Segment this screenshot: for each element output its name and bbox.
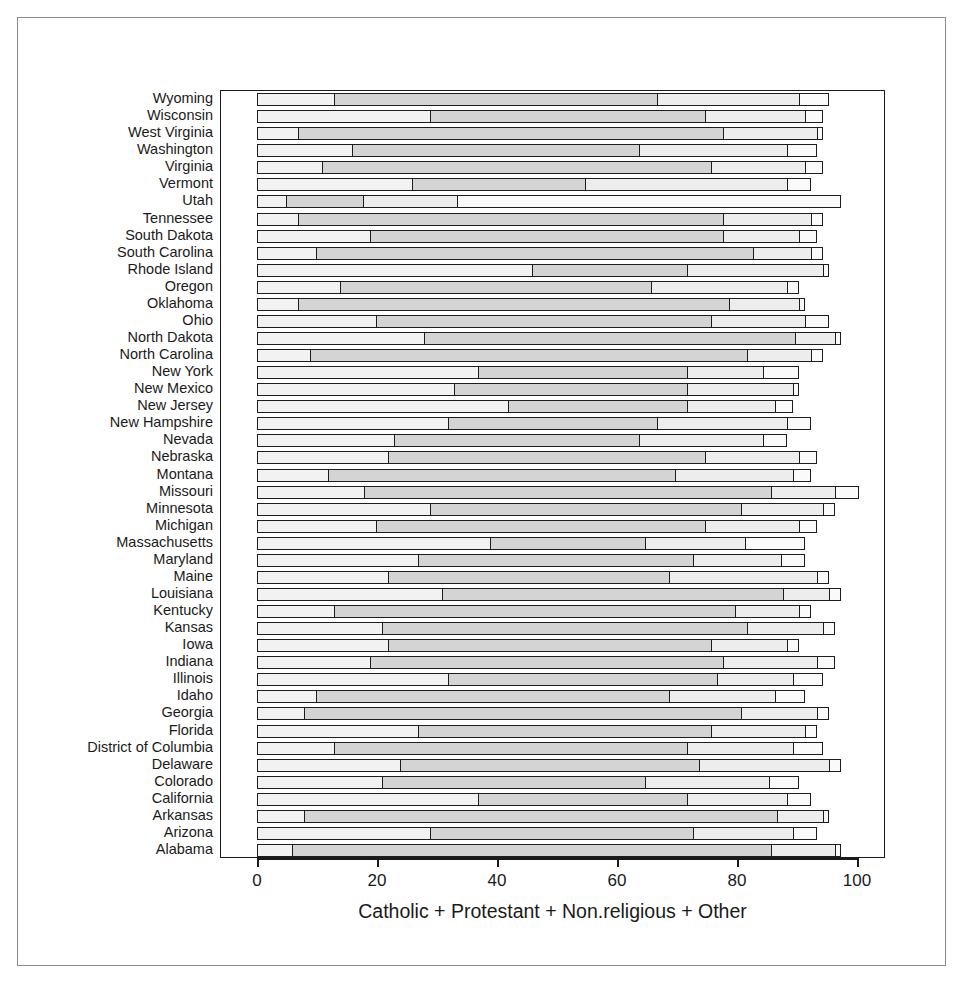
bar-segment-other[interactable]: [799, 230, 817, 243]
bar-segment-protestant[interactable]: [400, 759, 700, 772]
stacked-bar-row[interactable]: [257, 144, 817, 157]
bar-segment-other[interactable]: [787, 639, 799, 652]
stacked-bar-row[interactable]: [257, 571, 829, 584]
bar-segment-catholic[interactable]: [257, 793, 479, 806]
bar-segment-catholic[interactable]: [257, 673, 449, 686]
bar-segment-non-religious[interactable]: [687, 400, 777, 413]
bar-segment-catholic[interactable]: [257, 110, 431, 123]
stacked-bar-row[interactable]: [257, 673, 823, 686]
bar-segment-other[interactable]: [787, 178, 811, 191]
stacked-bar-row[interactable]: [257, 690, 805, 703]
bar-segment-other[interactable]: [793, 827, 817, 840]
bar-segment-catholic[interactable]: [257, 281, 341, 294]
bar-segment-catholic[interactable]: [257, 776, 383, 789]
bar-segment-non-religious[interactable]: [363, 195, 459, 208]
bar-segment-non-religious[interactable]: [687, 366, 765, 379]
bar-segment-other[interactable]: [775, 690, 805, 703]
stacked-bar-row[interactable]: [257, 298, 805, 311]
bar-segment-catholic[interactable]: [257, 827, 431, 840]
stacked-bar-row[interactable]: [257, 520, 817, 533]
stacked-bar-row[interactable]: [257, 178, 811, 191]
stacked-bar-row[interactable]: [257, 451, 817, 464]
bar-segment-protestant[interactable]: [454, 383, 688, 396]
stacked-bar-row[interactable]: [257, 759, 841, 772]
bar-segment-other[interactable]: [835, 486, 859, 499]
bar-segment-catholic[interactable]: [257, 366, 479, 379]
bar-segment-non-religious[interactable]: [717, 673, 795, 686]
bar-segment-non-religious[interactable]: [723, 230, 801, 243]
bar-segment-other[interactable]: [817, 656, 835, 669]
stacked-bar-row[interactable]: [257, 776, 799, 789]
bar-segment-other[interactable]: [787, 417, 811, 430]
bar-segment-protestant[interactable]: [370, 656, 724, 669]
stacked-bar-row[interactable]: [257, 810, 829, 823]
bar-segment-other[interactable]: [793, 673, 823, 686]
stacked-bar-row[interactable]: [257, 554, 805, 567]
bar-segment-catholic[interactable]: [257, 178, 413, 191]
bar-segment-non-religious[interactable]: [729, 298, 801, 311]
bar-segment-non-religious[interactable]: [705, 451, 801, 464]
bar-segment-catholic[interactable]: [257, 588, 443, 601]
bar-segment-protestant[interactable]: [334, 742, 688, 755]
stacked-bar-row[interactable]: [257, 332, 841, 345]
bar-segment-non-religious[interactable]: [675, 469, 795, 482]
bar-segment-catholic[interactable]: [257, 298, 299, 311]
bar-segment-catholic[interactable]: [257, 486, 365, 499]
bar-segment-other[interactable]: [805, 110, 823, 123]
bar-segment-catholic[interactable]: [257, 451, 389, 464]
bar-segment-protestant[interactable]: [382, 622, 748, 635]
bar-segment-other[interactable]: [763, 366, 799, 379]
bar-segment-other[interactable]: [457, 195, 841, 208]
stacked-bar-row[interactable]: [257, 707, 829, 720]
bar-segment-protestant[interactable]: [340, 281, 652, 294]
bar-segment-catholic[interactable]: [257, 844, 293, 857]
bar-segment-protestant[interactable]: [322, 161, 712, 174]
bar-segment-protestant[interactable]: [430, 503, 742, 516]
bar-segment-protestant[interactable]: [430, 827, 694, 840]
bar-segment-catholic[interactable]: [257, 622, 383, 635]
bar-segment-other[interactable]: [835, 332, 841, 345]
bar-segment-protestant[interactable]: [364, 486, 772, 499]
bar-segment-non-religious[interactable]: [657, 417, 789, 430]
bar-segment-catholic[interactable]: [257, 161, 323, 174]
bar-segment-catholic[interactable]: [257, 469, 329, 482]
bar-segment-other[interactable]: [745, 537, 805, 550]
bar-segment-other[interactable]: [787, 144, 817, 157]
stacked-bar-row[interactable]: [257, 247, 823, 260]
bar-segment-protestant[interactable]: [388, 571, 670, 584]
stacked-bar-row[interactable]: [257, 213, 823, 226]
stacked-bar-row[interactable]: [257, 725, 817, 738]
bar-segment-non-religious[interactable]: [645, 537, 747, 550]
bar-segment-other[interactable]: [835, 844, 841, 857]
bar-segment-other[interactable]: [775, 400, 793, 413]
bar-segment-catholic[interactable]: [257, 571, 389, 584]
bar-segment-protestant[interactable]: [376, 520, 706, 533]
stacked-bar-row[interactable]: [257, 195, 841, 208]
bar-segment-other[interactable]: [799, 520, 817, 533]
bar-segment-non-religious[interactable]: [747, 349, 813, 362]
stacked-bar-row[interactable]: [257, 742, 823, 755]
bar-segment-catholic[interactable]: [257, 554, 419, 567]
bar-segment-other[interactable]: [799, 298, 805, 311]
bar-segment-catholic[interactable]: [257, 520, 377, 533]
bar-segment-other[interactable]: [817, 707, 829, 720]
bar-segment-other[interactable]: [817, 127, 823, 140]
stacked-bar-row[interactable]: [257, 383, 799, 396]
bar-segment-non-religious[interactable]: [711, 725, 807, 738]
bar-segment-other[interactable]: [811, 349, 823, 362]
bar-segment-non-religious[interactable]: [711, 161, 807, 174]
bar-segment-catholic[interactable]: [257, 349, 311, 362]
bar-segment-protestant[interactable]: [334, 605, 736, 618]
bar-segment-non-religious[interactable]: [687, 383, 795, 396]
bar-segment-catholic[interactable]: [257, 315, 377, 328]
bar-segment-catholic[interactable]: [257, 537, 491, 550]
bar-segment-catholic[interactable]: [257, 639, 389, 652]
stacked-bar-row[interactable]: [257, 827, 817, 840]
bar-segment-non-religious[interactable]: [723, 127, 819, 140]
bar-segment-protestant[interactable]: [430, 110, 706, 123]
bar-segment-catholic[interactable]: [257, 144, 353, 157]
bar-segment-non-religious[interactable]: [657, 93, 801, 106]
bar-segment-catholic[interactable]: [257, 213, 299, 226]
bar-segment-protestant[interactable]: [490, 537, 646, 550]
bar-segment-other[interactable]: [823, 622, 835, 635]
